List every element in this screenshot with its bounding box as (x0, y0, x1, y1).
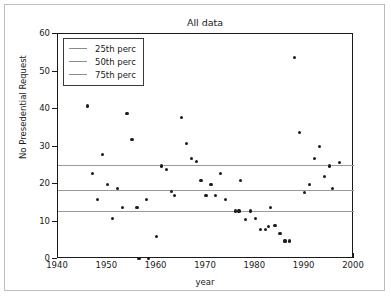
x-tick-label: 1990 (281, 260, 327, 270)
scatter-point (331, 187, 334, 190)
scatter-point (288, 239, 291, 242)
scatter-point (254, 217, 257, 220)
x-tick-label: 1970 (182, 260, 228, 270)
scatter-point (303, 191, 306, 194)
scatter-point (145, 198, 148, 201)
x-tick-label: 1950 (83, 260, 129, 270)
scatter-point (170, 190, 173, 193)
scatter-point (165, 168, 168, 171)
scatter-point (180, 116, 183, 119)
scatter-point (130, 138, 133, 141)
scatter-point (190, 157, 193, 160)
scatter-point (91, 172, 94, 175)
legend-line-icon (69, 74, 87, 75)
y-tick-label: 50 (2, 66, 50, 76)
scatter-point (338, 161, 341, 164)
scatter-point (298, 131, 301, 134)
scatter-point (249, 209, 252, 212)
x-tick-label: 1980 (231, 260, 277, 270)
scatter-point (204, 194, 207, 197)
scatter-point (86, 104, 89, 107)
x-tick-mark (353, 253, 354, 258)
scatter-point (237, 209, 240, 212)
legend-label: 75th perc (95, 70, 136, 80)
y-tick-mark (52, 258, 57, 259)
scatter-point (96, 198, 99, 201)
legend-box[interactable]: 25th perc 50th perc 75th perc (63, 38, 144, 86)
scatter-point (209, 183, 212, 186)
scatter-point (214, 194, 217, 197)
x-tick-label: 1960 (133, 260, 179, 270)
scatter-point (224, 198, 227, 201)
y-tick-label: 30 (2, 141, 50, 151)
y-tick-label: 60 (2, 28, 50, 38)
scatter-point (137, 257, 140, 260)
chart-title: All data (57, 17, 353, 28)
scatter-point (283, 239, 286, 242)
scatter-point (116, 187, 119, 190)
scatter-point (264, 228, 267, 231)
scatter-point (101, 153, 104, 156)
scatter-point (219, 172, 222, 175)
scatter-point (173, 194, 176, 197)
percentile-line (58, 190, 354, 191)
scatter-point (125, 112, 128, 115)
y-tick-label: 40 (2, 103, 50, 113)
figure-canvas: All data No Presedential Request year 01… (0, 0, 391, 297)
y-tick-label: 20 (2, 178, 50, 188)
y-tick-label: 10 (2, 216, 50, 226)
scatter-point (135, 206, 138, 209)
scatter-point (273, 224, 276, 227)
percentile-line (58, 211, 354, 212)
x-axis-label: year (57, 277, 353, 287)
scatter-point (318, 145, 321, 148)
scatter-point (106, 183, 109, 186)
scatter-point (239, 179, 242, 182)
scatter-point (293, 56, 296, 59)
scatter-point (155, 235, 158, 238)
legend-line-icon (69, 61, 87, 62)
legend-label: 25th perc (95, 44, 136, 54)
scatter-point (259, 228, 262, 231)
scatter-point (121, 206, 124, 209)
scatter-point (323, 175, 326, 178)
scatter-point (111, 217, 114, 220)
percentile-line (58, 165, 354, 166)
x-tick-label: 2000 (330, 260, 376, 270)
scatter-point (185, 142, 188, 145)
x-tick-label: 1940 (34, 260, 80, 270)
legend-item: 50th perc (69, 55, 136, 68)
legend-label: 50th perc (95, 57, 136, 67)
scatter-point (269, 206, 272, 209)
legend-line-icon (69, 48, 87, 49)
scatter-point (308, 183, 311, 186)
scatter-point (313, 157, 316, 160)
scatter-point (278, 232, 281, 235)
scatter-point (199, 179, 202, 182)
scatter-point (328, 164, 331, 167)
scatter-point (244, 218, 247, 221)
legend-item: 75th perc (69, 68, 136, 81)
legend-item: 25th perc (69, 42, 136, 55)
plot-area: 25th perc 50th perc 75th perc (57, 33, 353, 258)
scatter-point (267, 225, 270, 228)
scatter-point (160, 164, 163, 167)
scatter-point (195, 160, 198, 163)
